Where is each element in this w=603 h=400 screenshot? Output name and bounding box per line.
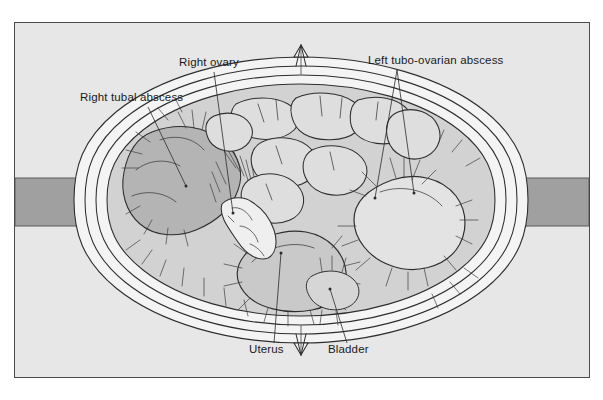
label-right-tubal-abscess: Right tubal abscess <box>80 91 183 103</box>
bowel-loop-8 <box>206 113 252 151</box>
leader-endpoint-uterus-1 <box>280 252 283 255</box>
leader-endpoint-right-tubal-abscess-1 <box>185 185 188 188</box>
leader-endpoint-bladder-1 <box>329 288 332 291</box>
bowel-loop-7 <box>386 110 440 159</box>
illustration-figure: Right tubal abscessRight ovaryLeft tubo-… <box>0 0 603 400</box>
label-left-tubo-ovarian-abscess: Left tubo-ovarian abscess <box>368 54 504 66</box>
leader-endpoint-left-tubo-ovarian-abscess-2 <box>413 192 416 195</box>
leader-endpoint-left-tubo-ovarian-abscess-1 <box>374 197 377 200</box>
label-right-ovary: Right ovary <box>179 56 239 68</box>
leader-endpoint-right-ovary-1 <box>232 212 235 215</box>
bowel-loop-6 <box>303 146 367 195</box>
pelvic-anatomy-illustration: Right tubal abscessRight ovaryLeft tubo-… <box>0 0 603 400</box>
label-bladder: Bladder <box>328 343 369 355</box>
label-uterus: Uterus <box>249 343 284 355</box>
